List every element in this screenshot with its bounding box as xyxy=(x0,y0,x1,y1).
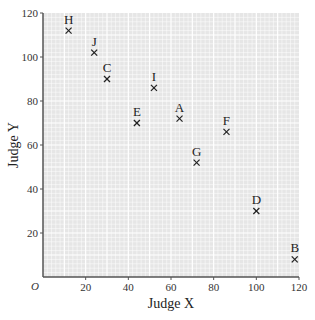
origin-label: O xyxy=(31,280,39,292)
point-label: C xyxy=(103,60,112,75)
x-tick-label: 60 xyxy=(166,281,178,293)
y-tick-label: 100 xyxy=(22,51,39,63)
y-tick-label: 60 xyxy=(27,139,39,151)
x-tick-label: 20 xyxy=(80,281,92,293)
point-label: G xyxy=(192,144,201,159)
y-tick-label: 120 xyxy=(22,7,39,19)
point-label: H xyxy=(64,12,73,27)
y-tick-label: 20 xyxy=(27,227,39,239)
x-tick-label: 40 xyxy=(123,281,135,293)
point-label: B xyxy=(290,240,299,255)
x-axis-title: Judge X xyxy=(148,296,194,311)
scatter-chart: 2040608010012020406080100120 ABCDEFGHIJ … xyxy=(0,0,315,320)
grid-lines xyxy=(43,13,299,277)
x-tick-label: 120 xyxy=(291,281,308,293)
point-label: D xyxy=(252,192,261,207)
y-axis-title: Judge Y xyxy=(6,122,21,168)
y-tick-label: 40 xyxy=(27,183,39,195)
y-tick-label: 80 xyxy=(27,95,39,107)
point-label: J xyxy=(92,34,97,49)
point-label: F xyxy=(223,113,230,128)
point-label: I xyxy=(152,69,156,84)
point-label: A xyxy=(175,100,185,115)
point-label: E xyxy=(133,104,141,119)
x-tick-label: 100 xyxy=(248,281,265,293)
x-tick-label: 80 xyxy=(208,281,220,293)
